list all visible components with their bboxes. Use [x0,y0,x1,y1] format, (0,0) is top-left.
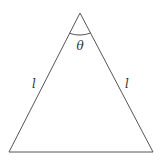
apex-angle-arc [70,33,91,35]
diagram-canvas: θ l l [0,0,161,161]
left-side [9,13,80,152]
apex-angle-label: θ [76,40,83,52]
right-side [80,13,153,152]
left-side-label: l [32,78,36,90]
right-side-label: l [125,78,129,90]
triangle-figure [0,0,161,161]
